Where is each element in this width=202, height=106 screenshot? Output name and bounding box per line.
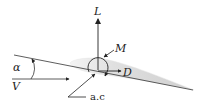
- moment-leader: [104, 50, 114, 57]
- airfoil-force-diagram: L M D α V a.c: [0, 0, 202, 106]
- lift-label: L: [93, 5, 101, 18]
- angle-of-attack-label: α: [13, 61, 21, 74]
- aerodynamic-center-label: a.c: [90, 91, 105, 102]
- airfoil-shape: [70, 58, 194, 90]
- drag-label: D: [122, 66, 132, 79]
- angle-of-attack-arc: [31, 59, 35, 79]
- moment-label: M: [114, 42, 127, 55]
- velocity-label: V: [12, 80, 21, 93]
